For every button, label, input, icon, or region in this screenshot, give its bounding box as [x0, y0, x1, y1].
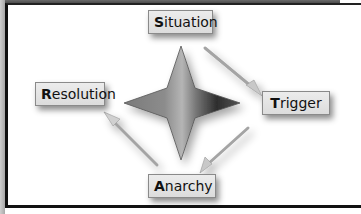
- node-anarchy-initial: A: [154, 178, 165, 194]
- arrow-anarchy-to-resolution: [104, 112, 157, 165]
- node-resolution: Resolution: [35, 82, 105, 106]
- node-anarchy-text: narchy: [165, 178, 213, 194]
- node-trigger-text: rigger: [280, 95, 322, 111]
- node-trigger: Trigger: [262, 91, 330, 115]
- node-situation-initial: S: [154, 14, 164, 30]
- node-resolution-initial: R: [41, 86, 52, 102]
- node-resolution-text: esolution: [52, 86, 116, 102]
- arrow-trigger-to-anarchy: [200, 128, 248, 173]
- node-trigger-initial: T: [270, 95, 280, 111]
- arrow-situation-to-trigger: [205, 48, 262, 96]
- node-situation: Situation: [148, 10, 213, 34]
- node-anarchy: Anarchy: [148, 174, 216, 198]
- node-situation-text: ituation: [164, 14, 218, 30]
